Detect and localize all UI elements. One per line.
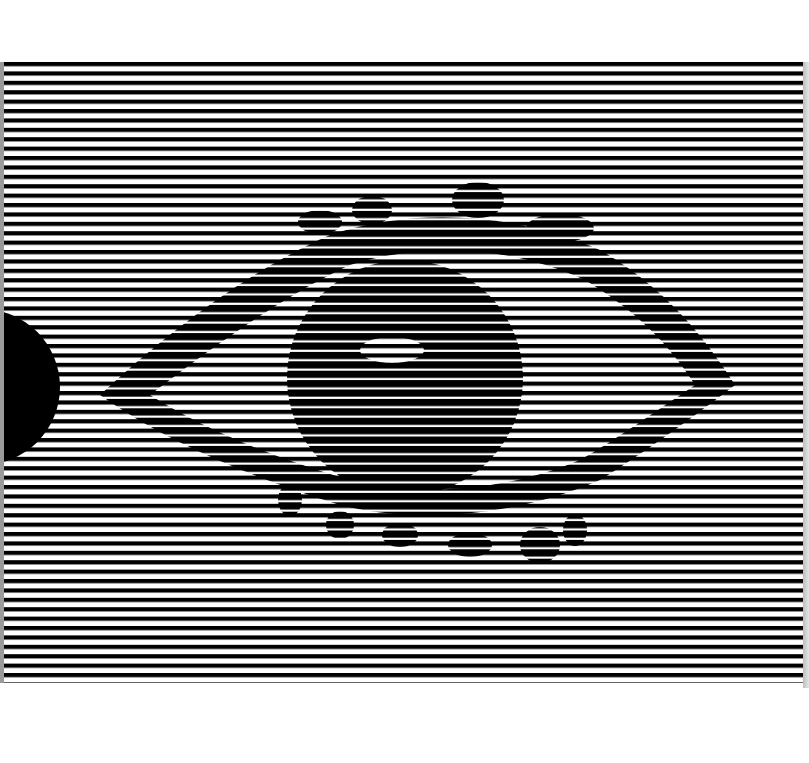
left-edge [0,62,4,683]
hidden-eye-thick-stripes [0,0,809,763]
illusion-canvas [0,0,809,763]
stripe-field [0,0,809,763]
stripe-illusion-image [0,0,809,763]
right-edge [803,62,809,688]
